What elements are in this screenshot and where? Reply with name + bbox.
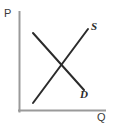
supply-curve-label: S	[91, 21, 97, 32]
demand-curve-label: D	[80, 89, 88, 100]
supply-demand-chart: P Q S D	[0, 0, 115, 124]
chart-canvas	[0, 0, 115, 124]
x-axis-label: Q	[97, 112, 106, 123]
y-axis-label: P	[4, 8, 11, 19]
demand-curve-line	[33, 33, 84, 90]
